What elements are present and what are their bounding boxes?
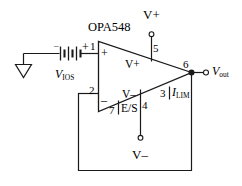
source-minus-terminal-sign: – [54, 41, 59, 50]
output-terminal-node [204, 70, 209, 75]
pin-number-5: 5 [153, 43, 159, 54]
circuit-diagram-canvas: OPA548 V+ V– – + VIOS 1 + 2 – 5 V+ V– 4 … [0, 0, 242, 186]
inverting-input-sign: – [101, 94, 107, 106]
opamp-part-label: OPA548 [88, 21, 131, 34]
enable-status-label: E/S [121, 103, 138, 115]
noninverting-input-sign: + [101, 47, 108, 59]
current-limit-label-sub: LIM [176, 91, 190, 100]
source-label: VIOS [55, 68, 74, 80]
ground-symbol [16, 54, 32, 78]
source-label-sub: IOS [62, 73, 74, 82]
output-label-sub: out [219, 70, 229, 79]
pin-number-3: 3 [160, 88, 166, 99]
pin4-vminus-supply-lead [138, 90, 143, 141]
pin-number-7: 7 [109, 105, 115, 116]
vminus-supply-terminal-node [138, 135, 143, 140]
pin-number-1: 1 [90, 41, 96, 52]
rail-positive-label: V+ [143, 8, 160, 21]
pin-number-6: 6 [183, 59, 189, 70]
pin-number-2: 2 [89, 85, 95, 96]
opamp-supply-positive-label: V+ [125, 59, 140, 71]
opamp-supply-negative-label: V– [122, 89, 136, 101]
rail-negative-label: V– [132, 148, 148, 161]
battery-source-symbol [61, 47, 81, 61]
vplus-supply-terminal-node [149, 32, 154, 37]
output-label: Vout [212, 65, 229, 77]
pin-number-4: 4 [142, 100, 148, 111]
source-plus-terminal-sign: + [82, 41, 89, 53]
current-limit-label: ILIM [172, 86, 190, 98]
